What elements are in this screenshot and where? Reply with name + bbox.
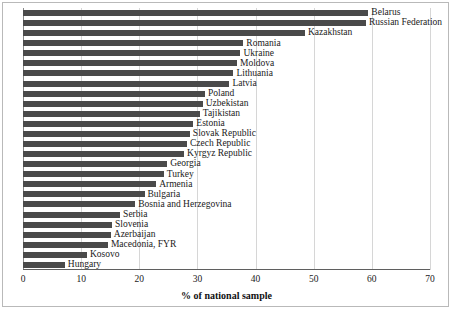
- bar-category-label: Tajikistan: [203, 109, 240, 119]
- bar-category-label: Turkey: [167, 170, 194, 180]
- bar-category-label: Slovak Republic: [193, 129, 256, 139]
- x-tick-label: 40: [241, 274, 271, 284]
- bar: [23, 40, 243, 46]
- x-tick-label: 0: [8, 274, 38, 284]
- bar: [23, 111, 200, 117]
- x-tick-label: 60: [357, 274, 387, 284]
- bar-chart: BelarusRussian FederationKazakhstanRoman…: [0, 0, 453, 311]
- bar: [23, 141, 187, 147]
- bar-category-label: Macedonia, FYR: [111, 240, 176, 250]
- bar-category-label: Kyrgyz Republic: [187, 149, 252, 159]
- bar-category-label: Bulgaria: [148, 190, 181, 200]
- bar-category-label: Poland: [208, 89, 234, 99]
- bar: [23, 131, 190, 137]
- bar: [23, 121, 193, 127]
- bar-row: Bosnia and Herzegovina: [23, 199, 430, 209]
- bar-row: Ukraine: [23, 48, 430, 58]
- bar-row: Kyrgyz Republic: [23, 149, 430, 159]
- bar-category-label: Ukraine: [243, 49, 274, 59]
- bar: [23, 252, 87, 258]
- bar-row: Macedonia, FYR: [23, 240, 430, 250]
- bar-row: Russian Federation: [23, 18, 430, 28]
- x-tick-label: 30: [182, 274, 212, 284]
- bar: [23, 81, 229, 87]
- bar-category-label: Slovenia: [115, 220, 148, 230]
- bar: [23, 20, 366, 26]
- bar-row: Azerbaijan: [23, 230, 430, 240]
- bar: [23, 70, 233, 76]
- bar: [23, 151, 184, 157]
- bar: [23, 161, 167, 167]
- bar-category-label: Estonia: [196, 119, 225, 129]
- bar-category-label: Lithuania: [236, 69, 272, 79]
- bar: [23, 91, 205, 97]
- bar: [23, 222, 112, 228]
- bar: [23, 50, 240, 56]
- bar: [23, 101, 203, 107]
- bar: [23, 10, 368, 16]
- bar-row: Armenia: [23, 179, 430, 189]
- x-tick-label: 10: [66, 274, 96, 284]
- x-axis-title: % of national sample: [0, 290, 453, 301]
- bar-category-label: Czech Republic: [190, 139, 250, 149]
- bar: [23, 30, 305, 36]
- bar: [23, 171, 164, 177]
- bar-category-label: Azerbaijan: [114, 230, 156, 240]
- bar: [23, 262, 65, 268]
- bar: [23, 212, 120, 218]
- bar: [23, 60, 237, 66]
- bar-category-label: Belarus: [371, 8, 400, 18]
- bar-category-label: Romania: [246, 39, 280, 49]
- bar-category-label: Moldova: [240, 59, 274, 69]
- x-tick-label: 20: [124, 274, 154, 284]
- bar-category-label: Latvia: [232, 79, 256, 89]
- bar-row: Romania: [23, 38, 430, 48]
- bar-row: Lithuania: [23, 68, 430, 78]
- bar-category-label: Serbia: [123, 210, 147, 220]
- x-tick-label: 70: [415, 274, 445, 284]
- plot-area: BelarusRussian FederationKazakhstanRoman…: [23, 8, 430, 270]
- x-tick-label: 50: [299, 274, 329, 284]
- bar-row: Bulgaria: [23, 189, 430, 199]
- bar-row: Kazakhstan: [23, 28, 430, 38]
- bar-category-label: Bosnia and Herzegovina: [138, 200, 231, 210]
- bar: [23, 232, 111, 238]
- bar-category-label: Georgia: [170, 159, 200, 169]
- bar-row: Georgia: [23, 159, 430, 169]
- bar-category-label: Russian Federation: [369, 18, 442, 28]
- gridline: [430, 8, 431, 270]
- x-axis-line: [23, 269, 430, 270]
- bar: [23, 201, 135, 207]
- bar-row: Slovenia: [23, 220, 430, 230]
- bar-category-label: Kosovo: [90, 250, 120, 260]
- bar: [23, 242, 108, 248]
- bar-row: Moldova: [23, 58, 430, 68]
- bar-row: Turkey: [23, 169, 430, 179]
- bar-row: Tajikistan: [23, 109, 430, 119]
- bar: [23, 191, 145, 197]
- bar-category-label: Armenia: [159, 180, 192, 190]
- bar-category-label: Uzbekistan: [206, 99, 249, 109]
- bar-row: Serbia: [23, 210, 430, 220]
- bar-category-label: Kazakhstan: [308, 28, 352, 38]
- bar: [23, 181, 156, 187]
